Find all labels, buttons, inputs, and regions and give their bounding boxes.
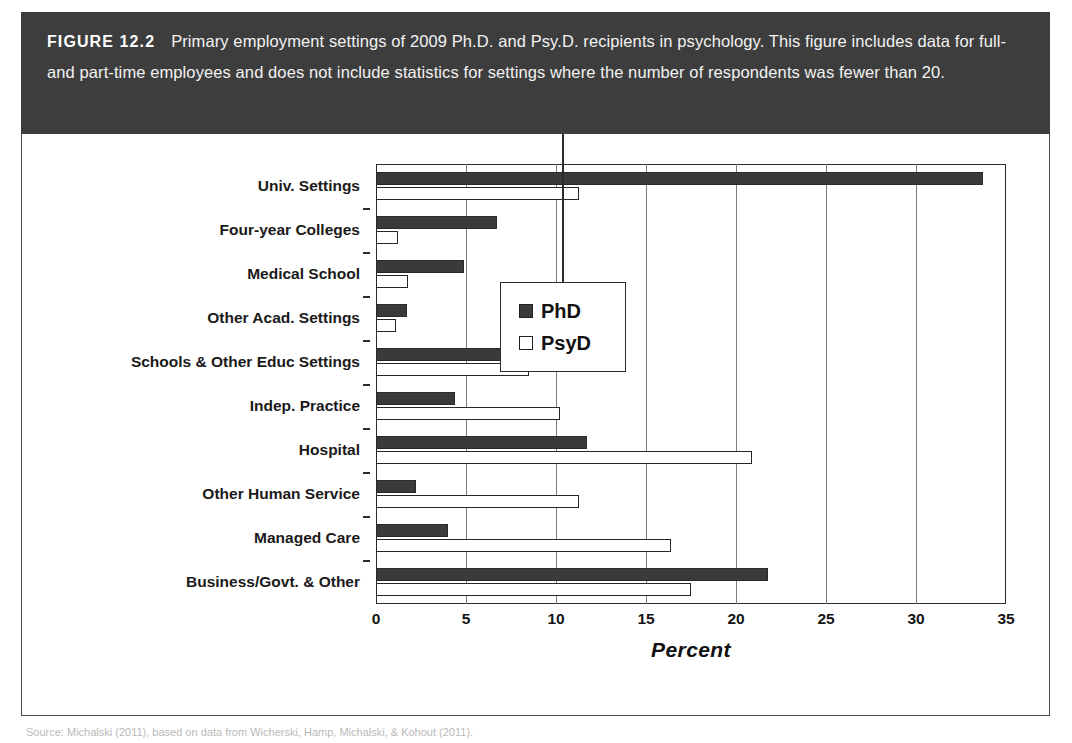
y-axis-tick [363,208,370,210]
y-axis-category-label: Other Human Service [20,485,360,503]
bar-phd [376,568,768,581]
x-axis-tick-label: 20 [727,610,744,628]
bar-phd [376,436,587,449]
bar-phd [376,304,407,317]
bar-group [376,384,1006,428]
bar-group [376,252,1006,296]
bar-psyd [376,539,671,552]
bar-phd [376,172,983,185]
figure-container: FIGURE 12.2Primary employment settings o… [21,12,1050,716]
bar-group [376,516,1006,560]
figure-caption-band: FIGURE 12.2Primary employment settings o… [21,12,1050,134]
y-axis-category-label: Schools & Other Educ Settings [20,353,360,371]
bar-group [376,164,1006,208]
bar-phd [376,524,448,537]
bar-group [376,428,1006,472]
y-axis-tick [363,428,370,430]
legend-item-psyd[interactable]: PsyD [519,327,625,359]
plot-area [376,164,1006,604]
x-axis-tick-label: 0 [372,610,381,628]
y-axis-category-label: Hospital [20,441,360,459]
bar-group [376,472,1006,516]
y-axis-category-label: Managed Care [20,529,360,547]
y-axis-labels: Univ. SettingsFour-year CollegesMedical … [22,164,370,604]
bar-phd [376,392,455,405]
y-axis-tick [363,384,370,386]
x-axis-tick-label: 10 [547,610,564,628]
bar-psyd [376,275,408,288]
bar-phd [376,216,497,229]
figure-caption-line: FIGURE 12.2Primary employment settings o… [47,26,1024,87]
x-axis-tick-label: 5 [462,610,471,628]
legend-swatch-psyd-icon [519,336,533,350]
x-axis-tick-label: 35 [997,610,1014,628]
y-axis-category-label: Business/Govt. & Other [20,573,360,591]
y-axis-tick [363,340,370,342]
x-axis-tick-labels: 05101520253035 [376,610,1006,636]
bar-psyd [376,407,560,420]
y-axis-tick [363,252,370,254]
legend-leader-line [562,134,564,282]
figure-number-label: FIGURE 12.2 [47,33,155,50]
legend-label-phd: PhD [541,300,581,323]
bar-psyd [376,187,579,200]
y-axis-category-label: Other Acad. Settings [20,309,360,327]
x-axis-title: Percent [376,638,1006,662]
legend-item-phd[interactable]: PhD [519,295,625,327]
bar-psyd [376,495,579,508]
legend-label-psyd: PsyD [541,332,591,355]
bar-group [376,560,1006,604]
bar-group [376,208,1006,252]
y-axis-tick [363,472,370,474]
bar-psyd [376,583,691,596]
y-axis-tick [363,560,370,562]
x-axis-tick-label: 25 [817,610,834,628]
y-axis-tick [363,296,370,298]
y-axis-category-label: Indep. Practice [20,397,360,415]
bar-group [376,340,1006,384]
y-axis-category-label: Medical School [20,265,360,283]
y-axis-tick [363,516,370,518]
y-axis-category-label: Four-year Colleges [20,221,360,239]
x-axis-tick-label: 15 [637,610,654,628]
x-axis-tick-label: 30 [907,610,924,628]
chart-panel: Univ. SettingsFour-year CollegesMedical … [21,134,1050,716]
figure-caption-text: Primary employment settings of 2009 Ph.D… [47,32,1006,81]
bar-psyd [376,231,398,244]
bar-phd [376,480,416,493]
bar-psyd [376,319,396,332]
chart-legend: PhD PsyD [500,282,626,372]
bar-psyd [376,451,752,464]
figure-source-note: Source: Michalski (2011), based on data … [26,726,1026,738]
bar-phd [376,260,464,273]
y-axis-category-label: Univ. Settings [20,177,360,195]
legend-swatch-phd-icon [519,304,533,318]
bar-group [376,296,1006,340]
